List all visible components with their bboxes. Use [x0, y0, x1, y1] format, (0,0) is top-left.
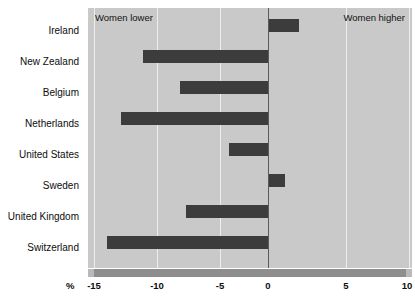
- annotation-women-lower: Women lower: [95, 12, 153, 23]
- gridline--10: [157, 8, 158, 268]
- bar-sweden: [269, 174, 285, 187]
- bar-switzerland: [107, 236, 268, 249]
- gridline--15: [94, 8, 95, 268]
- category-label-belgium: Belgium: [0, 87, 79, 98]
- category-label-united-kingdom: United Kingdom: [0, 211, 79, 222]
- chart-page: Ireland New Zealand Belgium Netherlands …: [0, 0, 415, 303]
- category-label-new-zealand: New Zealand: [0, 56, 79, 67]
- category-label-ireland: Ireland: [0, 25, 79, 36]
- bar-united-states: [229, 143, 268, 156]
- category-label-netherlands: Netherlands: [0, 118, 79, 129]
- category-label-switzerland: Switzerland: [0, 242, 79, 253]
- category-label-sweden: Sweden: [0, 180, 79, 191]
- x-tick--10: -10: [150, 280, 164, 291]
- x-axis-cap-right: [406, 269, 412, 277]
- zero-line: [268, 8, 269, 268]
- x-axis-tick-labels: % -15 -10 -5 0 5 10: [0, 280, 415, 298]
- gridline-10: [409, 8, 410, 268]
- bar-united-kingdom: [186, 205, 268, 218]
- plot-area: Women lower Women higher: [88, 8, 412, 268]
- bar-ireland: [269, 19, 299, 32]
- x-tick-10: 10: [402, 280, 413, 291]
- category-label-column: Ireland New Zealand Belgium Netherlands …: [0, 0, 84, 268]
- x-tick--15: -15: [87, 280, 101, 291]
- x-axis-cap-left: [88, 269, 94, 277]
- x-tick-0: 0: [265, 280, 270, 291]
- x-axis-bar: [88, 269, 412, 277]
- bar-netherlands: [121, 112, 268, 125]
- category-label-united-states: United States: [0, 149, 79, 160]
- bar-belgium: [180, 81, 268, 94]
- annotation-women-higher: Women higher: [343, 12, 405, 23]
- gridline-5: [346, 8, 347, 268]
- bar-new-zealand: [143, 50, 268, 63]
- x-tick--5: -5: [216, 280, 224, 291]
- x-axis-unit-label: %: [66, 280, 74, 291]
- x-tick-5: 5: [343, 280, 348, 291]
- gridline--5: [220, 8, 221, 268]
